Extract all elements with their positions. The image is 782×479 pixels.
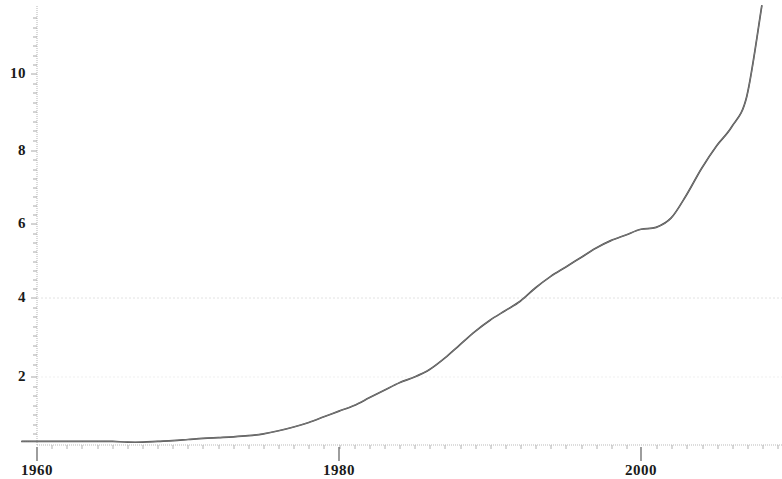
chart-container: 10 8 6 4 2 1960 1980 2000: [0, 0, 782, 479]
y-tick-label-10: 10: [0, 65, 26, 82]
x-axis-major-ticks: [37, 447, 641, 461]
x-tick-label-1980: 1980: [299, 462, 379, 479]
y-tick-label-4: 4: [0, 289, 26, 306]
line-chart-plot: [0, 0, 782, 479]
x-tick-label-1960: 1960: [0, 462, 77, 479]
gridlines: [37, 298, 782, 377]
y-tick-label-8: 8: [0, 142, 26, 159]
x-tick-label-2000: 2000: [601, 462, 681, 479]
y-tick-label-2: 2: [0, 368, 26, 385]
y-axis-minor-ticks: [31, 18, 37, 434]
x-axis-minor-ticks: [52, 445, 778, 449]
y-tick-label-6: 6: [0, 215, 26, 232]
